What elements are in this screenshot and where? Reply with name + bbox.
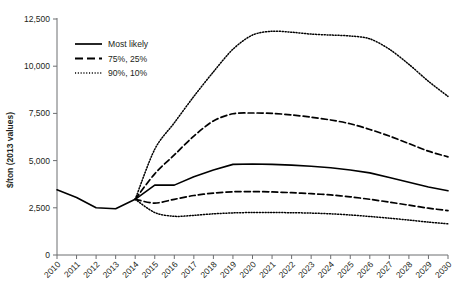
x-tick-label: 2014	[120, 259, 141, 280]
x-tick-label: 2030	[433, 259, 454, 280]
y-tick-label: 2,500	[29, 203, 51, 213]
x-tick-label: 2010	[42, 259, 63, 280]
y-tick-label: 0	[45, 250, 50, 260]
series-line	[135, 31, 448, 199]
x-tick-label: 2013	[101, 259, 122, 280]
x-tick-label: 2025	[335, 259, 356, 280]
x-tick-label: 2028	[394, 259, 415, 280]
x-tick-label: 2020	[237, 259, 258, 280]
y-axis: 02,5005,0007,50010,00012,500	[24, 14, 57, 260]
x-tick-label: 2023	[296, 259, 317, 280]
x-tick-label: 2026	[355, 259, 376, 280]
x-axis: 2010201120122013201420152016201720182019…	[42, 255, 454, 280]
legend-label: 90%, 10%	[108, 68, 148, 78]
forecast-line-chart: 02,5005,0007,50010,00012,500 20102011201…	[0, 0, 454, 303]
x-tick-label: 2016	[159, 259, 180, 280]
series-line	[135, 192, 448, 211]
x-tick-label: 2017	[179, 259, 200, 280]
y-axis-title: $/ton (2013 values)	[5, 112, 15, 188]
y-tick-label: 7,500	[29, 108, 51, 118]
legend-label: 75%, 25%	[108, 54, 148, 64]
chart-canvas: 02,5005,0007,50010,00012,500 20102011201…	[0, 0, 454, 303]
x-tick-label: 2027	[374, 259, 395, 280]
y-tick-label: 12,500	[24, 14, 50, 24]
chart-legend: Most likely75%, 25%90%, 10%	[75, 39, 149, 78]
x-tick-label: 2015	[140, 259, 161, 280]
legend-label: Most likely	[108, 39, 149, 49]
y-tick-label: 5,000	[29, 156, 51, 166]
y-tick-label: 10,000	[24, 61, 50, 71]
x-tick-label: 2021	[257, 259, 278, 280]
x-tick-label: 2012	[81, 259, 102, 280]
x-tick-label: 2022	[277, 259, 298, 280]
series-line	[135, 164, 448, 199]
series-line	[135, 199, 448, 224]
x-tick-label: 2018	[198, 259, 219, 280]
series-line	[135, 113, 448, 199]
x-tick-label: 2029	[413, 259, 434, 280]
x-tick-label: 2019	[218, 259, 239, 280]
series-line	[57, 190, 135, 209]
x-tick-label: 2011	[62, 259, 82, 279]
x-tick-label: 2024	[316, 259, 337, 280]
